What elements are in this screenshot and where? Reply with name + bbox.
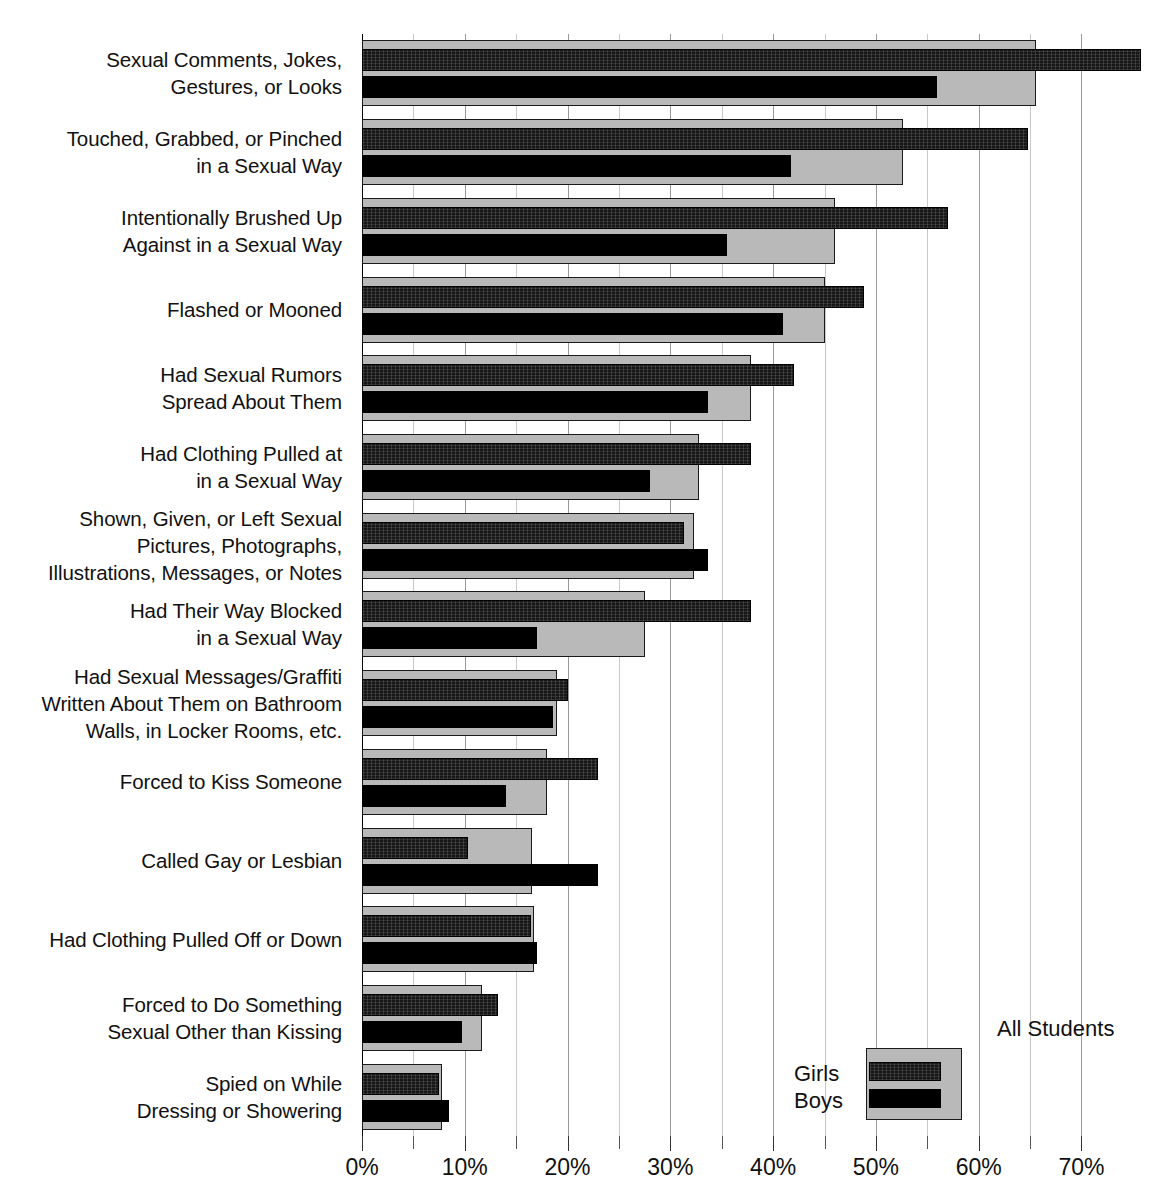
category-label: Forced to Kiss Someone	[120, 768, 342, 795]
legend-label-girls: Girls	[794, 1061, 839, 1087]
bar-group	[362, 434, 1102, 500]
category-label: Forced to Do Something Sexual Other than…	[107, 991, 342, 1045]
category-label: Had Sexual Rumors Spread About Them	[160, 361, 342, 415]
bar-boys	[362, 627, 537, 649]
x-tick-minor	[825, 1136, 826, 1149]
legend-swatch-girls	[869, 1062, 941, 1081]
bar-rows	[362, 34, 1102, 1136]
x-tick-major	[465, 1136, 466, 1151]
category-label: Had Clothing Pulled at in a Sexual Way	[140, 440, 342, 494]
bar-boys	[362, 391, 708, 413]
x-tick-major	[1081, 1136, 1082, 1151]
bar-boys	[362, 549, 708, 571]
bar-group	[362, 40, 1102, 106]
x-tick-minor	[619, 1136, 620, 1149]
category-label: Had Their Way Blocked in a Sexual Way	[130, 597, 342, 651]
category-label: Sexual Comments, Jokes, Gestures, or Loo…	[106, 46, 342, 100]
bar-group	[362, 198, 1102, 264]
bar-chart: Sexual Comments, Jokes, Gestures, or Loo…	[0, 0, 1162, 1200]
bar-girls	[362, 443, 751, 465]
bar-boys	[362, 864, 598, 886]
category-label: Had Sexual Messages/Graffiti Written Abo…	[42, 663, 343, 744]
bar-girls	[362, 600, 751, 622]
bar-group	[362, 277, 1102, 343]
x-tick-label: 10%	[442, 1154, 488, 1181]
category-label: Spied on While Dressing or Showering	[137, 1070, 342, 1124]
bar-group	[362, 355, 1102, 421]
bar-boys	[362, 155, 791, 177]
bar-girls	[362, 837, 468, 859]
x-tick-major	[876, 1136, 877, 1151]
bar-girls	[362, 758, 598, 780]
bar-group	[362, 985, 1102, 1051]
bar-boys	[362, 1100, 449, 1122]
bar-girls	[362, 994, 498, 1016]
bar-boys	[362, 1021, 462, 1043]
x-tick-label: 50%	[853, 1154, 899, 1181]
bar-boys	[362, 234, 727, 256]
bar-girls	[362, 364, 794, 386]
x-tick-label: 20%	[545, 1154, 591, 1181]
x-tick-label: 0%	[345, 1154, 378, 1181]
bar-group	[362, 591, 1102, 657]
x-tick-major	[362, 1136, 363, 1151]
x-tick-label: 70%	[1058, 1154, 1104, 1181]
plot-area	[362, 34, 1102, 1136]
bar-boys	[362, 706, 553, 728]
bar-group	[362, 119, 1102, 185]
category-label: Touched, Grabbed, or Pinched in a Sexual…	[67, 125, 342, 179]
category-label: Shown, Given, or Left Sexual Pictures, P…	[48, 505, 342, 586]
category-label: Had Clothing Pulled Off or Down	[49, 926, 342, 953]
x-tick-label: 30%	[647, 1154, 693, 1181]
x-tick-major	[773, 1136, 774, 1151]
legend-label-boys: Boys	[794, 1088, 843, 1114]
value-axis: 0%10%20%30%40%50%60%70%	[362, 1136, 1102, 1200]
bar-girls	[362, 1073, 439, 1095]
bar-group	[362, 670, 1102, 736]
bar-girls	[362, 49, 1141, 71]
x-tick-minor	[927, 1136, 928, 1149]
x-tick-major	[670, 1136, 671, 1151]
bar-boys	[362, 76, 937, 98]
x-tick-label: 60%	[956, 1154, 1002, 1181]
x-tick-minor	[722, 1136, 723, 1149]
category-label: Flashed or Mooned	[167, 296, 342, 323]
bar-group	[362, 749, 1102, 815]
category-label: Intentionally Brushed Up Against in a Se…	[121, 204, 342, 258]
x-tick-minor	[413, 1136, 414, 1149]
bar-group	[362, 828, 1102, 894]
bar-boys	[362, 942, 537, 964]
bar-group	[362, 1064, 1102, 1130]
bar-boys	[362, 313, 783, 335]
x-tick-major	[568, 1136, 569, 1151]
bar-group	[362, 513, 1102, 579]
legend-swatch-all-students	[866, 1048, 962, 1120]
x-tick-label: 40%	[750, 1154, 796, 1181]
legend-swatch-boys	[869, 1089, 941, 1108]
category-label: Called Gay or Lesbian	[141, 847, 342, 874]
bar-girls	[362, 128, 1028, 150]
chart-legend: All Students Girls Boys	[866, 1048, 962, 1120]
legend-label-all-students: All Students	[997, 1016, 1114, 1042]
bar-group	[362, 906, 1102, 972]
bar-girls	[362, 522, 684, 544]
bar-girls	[362, 286, 864, 308]
bar-girls	[362, 679, 568, 701]
x-tick-major	[979, 1136, 980, 1151]
x-tick-minor	[516, 1136, 517, 1149]
x-tick-minor	[1030, 1136, 1031, 1149]
category-axis-labels: Sexual Comments, Jokes, Gestures, or Loo…	[0, 34, 352, 1136]
bar-boys	[362, 470, 650, 492]
bar-girls	[362, 915, 531, 937]
bar-girls	[362, 207, 948, 229]
bar-boys	[362, 785, 506, 807]
